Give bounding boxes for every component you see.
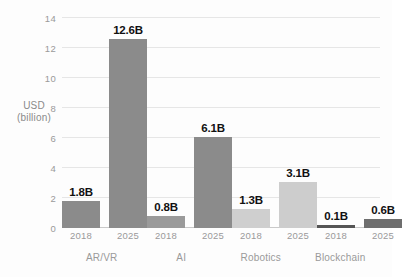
- y-axis-tick-labels: 14121086420: [32, 18, 56, 228]
- bar[interactable]: 0.8B: [147, 216, 185, 228]
- x-axis-year-label: 2018: [62, 230, 100, 246]
- x-axis-category-label: AR/VR: [62, 252, 142, 268]
- x-axis-category-label: Blockchain: [301, 252, 381, 268]
- bar-group: 1.8B12.6B: [62, 18, 147, 228]
- y-axis-tick: 0: [34, 223, 56, 234]
- y-axis-tick: 2: [34, 193, 56, 204]
- bar[interactable]: 12.6B: [109, 39, 147, 228]
- group-year-labels: 20182025: [232, 230, 317, 246]
- bar-group: 1.3B3.1B: [232, 18, 317, 228]
- bar-slot: 1.3B: [232, 18, 270, 228]
- bar-value-label: 6.1B: [201, 122, 225, 134]
- group-year-labels: 20182025: [317, 230, 402, 246]
- bar[interactable]: 3.1B: [279, 182, 317, 229]
- bar-slot: 1.8B: [62, 18, 100, 228]
- x-axis-category-label: AI: [142, 252, 222, 268]
- bar-slot: 0.6B: [364, 18, 402, 228]
- x-axis-year-label: 2018: [147, 230, 185, 246]
- x-axis-year-labels: 20182025201820252018202520182025: [62, 230, 380, 246]
- x-axis-year-label: 2025: [194, 230, 232, 246]
- y-axis-tick: 12: [34, 43, 56, 54]
- bar-value-label: 0.8B: [154, 201, 178, 213]
- bar-value-label: 1.8B: [69, 186, 93, 198]
- x-axis-year-label: 2018: [232, 230, 270, 246]
- x-axis-year-label: 2025: [364, 230, 402, 246]
- bar-value-label: 1.3B: [239, 194, 263, 206]
- bar-value-label: 0.1B: [324, 210, 348, 222]
- y-axis-tick: 6: [34, 133, 56, 144]
- x-axis-year-label: 2018: [317, 230, 355, 246]
- bar-slot: 3.1B: [279, 18, 317, 228]
- y-axis-tick: 10: [34, 73, 56, 84]
- x-axis-year-label: 2025: [279, 230, 317, 246]
- x-axis-year-label: 2025: [109, 230, 147, 246]
- bar[interactable]: 0.1B: [317, 225, 355, 228]
- bar-group: 0.8B6.1B: [147, 18, 232, 228]
- bar-groups: 1.8B12.6B0.8B6.1B1.3B3.1B0.1B0.6B: [62, 18, 380, 228]
- x-axis-category-label: Robotics: [221, 252, 301, 268]
- bar-slot: 6.1B: [194, 18, 232, 228]
- bar-slot: 0.8B: [147, 18, 185, 228]
- x-axis-category-labels: AR/VRAIRoboticsBlockchain: [62, 252, 380, 268]
- bar-value-label: 12.6B: [113, 24, 143, 36]
- bar-group: 0.1B0.6B: [317, 18, 402, 228]
- bar[interactable]: 0.6B: [364, 219, 402, 228]
- plot-area: 1.8B12.6B0.8B6.1B1.3B3.1B0.1B0.6B: [62, 18, 380, 228]
- group-year-labels: 20182025: [62, 230, 147, 246]
- bar[interactable]: 1.8B: [62, 201, 100, 228]
- group-year-labels: 20182025: [147, 230, 232, 246]
- bar-slot: 0.1B: [317, 18, 355, 228]
- bar-value-label: 3.1B: [286, 167, 310, 179]
- bar-value-label: 0.6B: [371, 204, 395, 216]
- y-axis-tick: 4: [34, 163, 56, 174]
- bar[interactable]: 6.1B: [194, 137, 232, 229]
- y-axis-tick: 14: [34, 13, 56, 24]
- y-axis-tick: 8: [34, 103, 56, 114]
- bar-slot: 12.6B: [109, 18, 147, 228]
- bar[interactable]: 1.3B: [232, 209, 270, 229]
